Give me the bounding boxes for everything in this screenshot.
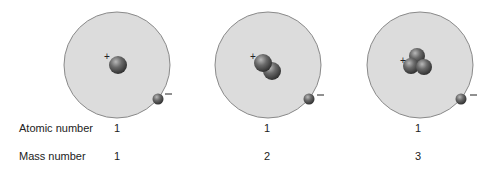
atom-hydrogen-2: + [215,12,324,118]
electron-icon [456,94,467,105]
electron-icon [304,94,315,105]
atomic-number-label: Atomic number [19,122,93,134]
mass-number-value-1: 1 [114,150,120,162]
electron-icon [153,94,164,105]
mass-number-value-2: 2 [264,150,270,162]
atomic-number-value-2: 1 [264,122,270,134]
nucleon-icon [416,59,432,75]
atomic-number-value-3: 1 [415,122,421,134]
plus-charge-icon: + [104,51,110,62]
atom-hydrogen-3: + [367,12,477,118]
plus-charge-icon: + [400,55,406,66]
atom-hydrogen-1: + [64,12,172,118]
mass-number-value-3: 3 [415,150,421,162]
nucleon-icon [254,54,272,72]
atomic-number-value-1: 1 [114,122,120,134]
mass-number-label: Mass number [19,150,86,162]
hydrogen-isotopes-diagram: +++ [0,0,491,174]
nucleon-icon [109,56,127,74]
plus-charge-icon: + [250,51,256,62]
